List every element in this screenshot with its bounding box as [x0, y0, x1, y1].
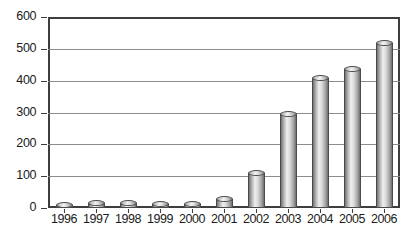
x-axis-tick-mark: [256, 209, 257, 213]
y-axis-tick-mark: [41, 144, 47, 145]
bar-cylinder: [280, 114, 297, 208]
y-axis-tick-label: 600: [0, 9, 36, 23]
x-axis-tick-label: 2003: [272, 212, 304, 226]
y-axis-tick-mark: [41, 176, 47, 177]
bar-chart: 0100200300400500600 19961997199819992000…: [0, 0, 417, 237]
x-axis-tick-label: 1999: [144, 212, 176, 226]
bar-cylinder-top: [216, 196, 233, 202]
bar: [376, 17, 393, 208]
y-axis-tick-mark: [41, 49, 47, 50]
x-axis-tick-label: 2000: [176, 212, 208, 226]
bar: [152, 17, 169, 208]
bar: [280, 17, 297, 208]
bar-cylinder: [216, 199, 233, 208]
bar-cylinder: [184, 204, 201, 208]
x-axis-tick-label: 1996: [48, 212, 80, 226]
bar: [88, 17, 105, 208]
bar: [248, 17, 265, 208]
bar-cylinder-top: [56, 202, 73, 208]
y-axis-tick-label: 100: [0, 168, 36, 182]
x-axis-tick-label: 1997: [80, 212, 112, 226]
x-axis-tick-mark: [320, 209, 321, 213]
bar-cylinder: [376, 43, 393, 208]
bar-cylinder-top: [376, 40, 393, 46]
y-axis-tick-label: 200: [0, 136, 36, 150]
bar: [120, 17, 137, 208]
bar: [56, 17, 73, 208]
bar-cylinder-top: [120, 200, 137, 206]
y-axis-tick-label: 500: [0, 41, 36, 55]
y-axis-tick-label: 300: [0, 105, 36, 119]
bar-cylinder-top: [344, 66, 361, 72]
bar-cylinder-top: [248, 170, 265, 176]
x-axis-tick-label: 2006: [368, 212, 400, 226]
bar: [344, 17, 361, 208]
bar: [312, 17, 329, 208]
bar-cylinder: [152, 204, 169, 208]
x-axis-tick-label: 1998: [112, 212, 144, 226]
x-axis-tick-label: 2004: [304, 212, 336, 226]
bar-cylinder: [312, 78, 329, 208]
x-axis-tick-label: 2001: [208, 212, 240, 226]
x-axis-tick-mark: [160, 209, 161, 213]
bar-cylinder-top: [280, 111, 297, 117]
bar-cylinder-top: [184, 201, 201, 207]
bars-layer: [48, 17, 400, 208]
x-axis-tick-label: 2005: [336, 212, 368, 226]
x-axis-tick-mark: [288, 209, 289, 213]
y-axis-tick-mark: [41, 81, 47, 82]
bar-cylinder-top: [152, 201, 169, 207]
bar: [216, 17, 233, 208]
bar-cylinder-top: [312, 75, 329, 81]
y-axis-tick-label: 0: [0, 200, 36, 214]
y-axis-tick-mark: [41, 113, 47, 114]
x-axis-tick-mark: [352, 209, 353, 213]
bar: [184, 17, 201, 208]
bar-cylinder: [248, 173, 265, 208]
y-axis-tick-mark: [41, 208, 47, 209]
bar-cylinder: [56, 205, 73, 208]
x-axis-tick-mark: [96, 209, 97, 213]
x-axis-tick-mark: [192, 209, 193, 213]
x-axis-tick-mark: [224, 209, 225, 213]
x-axis-tick-mark: [128, 209, 129, 213]
x-axis-tick-mark: [64, 209, 65, 213]
bar-cylinder: [344, 69, 361, 208]
x-axis-tick-label: 2002: [240, 212, 272, 226]
bar-cylinder: [88, 203, 105, 208]
bar-cylinder-top: [88, 200, 105, 206]
y-axis-tick-label: 400: [0, 73, 36, 87]
x-axis-tick-mark: [384, 209, 385, 213]
y-axis-tick-mark: [41, 17, 47, 18]
bar-cylinder: [120, 203, 137, 208]
